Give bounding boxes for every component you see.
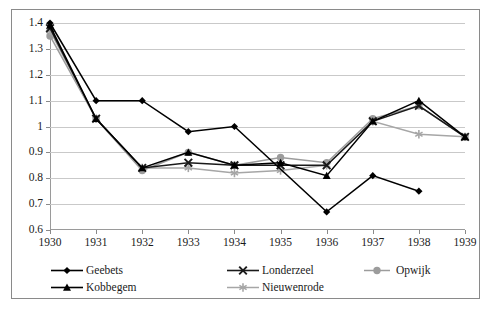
legend-item-opwijk[interactable]: Opwijk [360, 263, 431, 278]
x-tick-mark [373, 230, 374, 234]
x-axis-label: 1934 [223, 237, 246, 249]
legend-swatch-asterisk-icon [226, 281, 260, 294]
series-line [50, 23, 419, 212]
series-geebets [46, 19, 422, 215]
marker-diamond [93, 97, 100, 104]
legend-item-geebets[interactable]: Geebets [50, 263, 123, 278]
x-axis-label: 1937 [361, 237, 384, 249]
x-tick-mark [142, 230, 143, 234]
x-tick-mark [327, 230, 328, 234]
series-line [50, 31, 465, 173]
x-tick-mark [96, 230, 97, 234]
series-line [50, 36, 465, 171]
y-axis-label: 1.1 [29, 95, 43, 107]
x-axis-label: 1938 [407, 237, 430, 249]
x-tick-mark [188, 230, 189, 234]
y-axis-label: 1.4 [29, 17, 43, 29]
marker-triangle [415, 97, 423, 104]
chart-container: 0.60.70.80.911.11.21.31.4 19301931193219… [11, 9, 480, 299]
series-nieuwenrode [46, 27, 468, 178]
x-axis-label: 1931 [85, 237, 108, 249]
legend-swatch-triangle-icon [50, 281, 84, 294]
x-tick-mark [465, 230, 466, 234]
x-tick-mark [50, 230, 51, 234]
y-axis-label: 0.6 [29, 224, 43, 236]
legend-item-nieuwenrode[interactable]: Nieuwenrode [226, 280, 324, 295]
legend-swatch-x-icon [226, 264, 260, 277]
x-axis-label: 1936 [315, 237, 338, 249]
x-axis-label: 1935 [269, 237, 292, 249]
legend-item-londerzeel[interactable]: Londerzeel [226, 263, 314, 278]
y-axis-label: 0.8 [29, 173, 43, 185]
y-axis-label: 1 [37, 121, 43, 133]
series-opwijk [46, 32, 468, 174]
marker-circle [373, 267, 380, 274]
x-axis-label: 1939 [454, 237, 477, 249]
y-axis-label: 0.9 [29, 147, 43, 159]
y-axis-label: 1.3 [29, 43, 43, 55]
legend-label: Londerzeel [262, 265, 314, 277]
series-plot [50, 23, 465, 230]
legend-swatch-circle-icon [360, 264, 394, 277]
series-londerzeel [46, 24, 469, 171]
legend-item-kobbegem[interactable]: Kobbegem [50, 280, 136, 295]
y-axis-label: 0.7 [29, 198, 43, 210]
x-axis-label: 1932 [131, 237, 154, 249]
legend-label: Geebets [86, 265, 123, 277]
legend-label: Opwijk [396, 265, 431, 277]
x-tick-mark [234, 230, 235, 234]
legend-swatch-diamond-icon [50, 264, 84, 277]
marker-diamond [415, 188, 422, 195]
x-tick-mark [419, 230, 420, 234]
marker-diamond [63, 267, 70, 274]
x-tick-mark [281, 230, 282, 234]
chart-legend: GeebetsKobbegemLonderzeelNieuwenrodeOpwi… [50, 263, 450, 297]
legend-label: Kobbegem [86, 282, 136, 294]
plot-area: 0.60.70.80.911.11.21.31.4 19301931193219… [50, 23, 465, 230]
y-axis-label: 1.2 [29, 69, 43, 81]
x-axis-label: 1930 [39, 237, 62, 249]
legend-label: Nieuwenrode [262, 282, 324, 294]
x-axis-label: 1933 [177, 237, 200, 249]
